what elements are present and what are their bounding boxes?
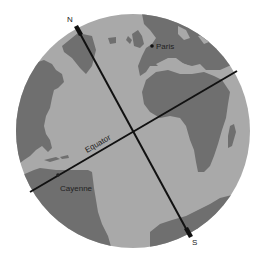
- cayenne-dot: [56, 173, 60, 177]
- paris-label: Paris: [156, 42, 174, 51]
- north-label: N: [67, 15, 73, 24]
- south-label: S: [192, 238, 197, 247]
- cayenne-label: Cayenne: [60, 184, 93, 193]
- paris-dot: [150, 44, 154, 48]
- globe-diagram: N S Paris Cayenne Equator: [0, 0, 264, 266]
